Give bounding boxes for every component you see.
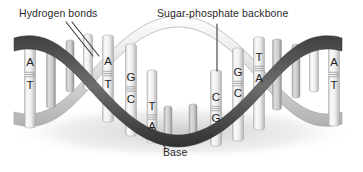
dna-diagram-figure: ATATGCTACGGCTAAT Hydrogen bonds Sugar-ph… — [0, 0, 363, 172]
base-letter-c: C — [212, 91, 220, 103]
base-letter-t: T — [104, 78, 111, 90]
base-letter-a: A — [104, 55, 112, 67]
base-letter-c: C — [234, 87, 242, 99]
base-letter-a: A — [255, 72, 263, 84]
base-letter-c: C — [127, 93, 135, 105]
base-letter-t: T — [255, 51, 262, 63]
sugar-phosphate-backbone-label: Sugar-phosphate backbone — [157, 7, 288, 19]
base-letter-t: T — [26, 79, 33, 91]
base-letter-g: G — [127, 71, 136, 83]
base-letter-a: A — [148, 120, 156, 132]
base-letter-g: G — [234, 66, 243, 78]
base-letter-t: T — [330, 79, 337, 91]
hydrogen-bonds-label: Hydrogen bonds — [19, 7, 97, 19]
base-letter-a: A — [26, 56, 34, 68]
base-letter-t: T — [148, 100, 155, 112]
base-label: Base — [163, 146, 187, 158]
base-letter-g: G — [212, 112, 221, 124]
base-letter-a: A — [330, 56, 338, 68]
